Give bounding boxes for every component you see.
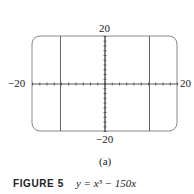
figure-number: FIGURE 5 [13,178,64,189]
plot-frame [32,36,177,131]
y-max-label: 20 [99,22,110,34]
axis-ticks [33,37,178,132]
plot-area [0,0,194,194]
subcaption: (a) [99,155,111,167]
figure-caption: FIGURE 5y = x³ − 150x [13,177,136,189]
x-min-label: −20 [8,77,25,89]
y-min-label: −20 [96,133,113,145]
equation: y = x³ − 150x [76,177,136,189]
x-max-label: 20 [180,77,191,89]
